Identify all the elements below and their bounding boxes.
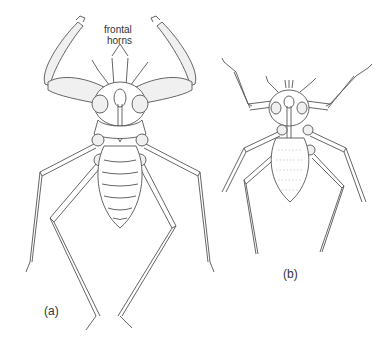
frontal-horn-left: [112, 58, 114, 86]
front-leg-right-b: [326, 64, 372, 108]
frontal-horns-label-line2: horns: [107, 35, 132, 46]
panel-label-b: (b): [283, 267, 298, 281]
front-leg-left-b: [222, 58, 252, 108]
panel-label-a: (a): [44, 304, 59, 318]
frontal-horns-label-line1: frontal: [104, 24, 132, 35]
specimen-a: [26, 16, 214, 330]
abdomen-a: [98, 146, 142, 228]
frontal-horn-right: [126, 58, 128, 86]
specimen-b: [222, 58, 372, 254]
insect-figure: frontal horns (a) (b): [0, 0, 389, 342]
antenna-left: [92, 60, 110, 86]
